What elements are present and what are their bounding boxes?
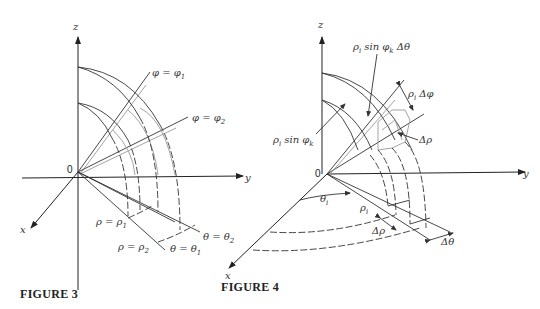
theta2-label: θ = θ2 [203,231,235,245]
dash-arc-2 [392,148,410,224]
z-axis-label: z [317,19,324,30]
arc-rho1-theta2 [78,103,128,140]
dash-arc-1 [405,142,426,228]
arc-outer [322,73,412,150]
arc-length-theta-label: ρi sin φk Δθ [352,41,410,55]
theta-ray-1 [327,174,450,232]
figure-4-caption: FIGURE 4 [221,280,279,294]
origin-label: 0 [315,168,321,179]
radius-sin-label: ρi sin φk [272,134,314,148]
rho-i-label: ρi [359,202,368,216]
delta-rho-bottom-label: Δρ [371,225,385,236]
y-axis [327,172,525,174]
arc-length-phi-label: ρi Δφ [407,88,434,102]
leader-arc-theta [368,54,377,116]
theta1-ray-b [78,172,165,250]
y-axis-label: y [522,168,529,179]
theta1-label: θ = θ1 [170,243,201,257]
y-axis [22,176,243,178]
rho2-arc [158,225,195,242]
delta-rho-top-label: Δρ [418,134,432,145]
rho1-label: ρ = ρ1 [95,216,127,230]
dash-arc-2 [140,118,158,212]
origin-label: 0 [67,164,73,175]
diagram-canvas: z y x 0 φ = φ1 φ = φ2 ρ = ρ1 ρ = ρ2 θ = … [0,0,540,309]
figure-4: z y x 0 ρi sin φk Δθ ρi sin φk ρi Δφ Δρ … [221,19,529,294]
volume-element-inner [382,120,402,140]
arc-gray-outer [140,108,175,175]
arc-gray-mid [128,110,158,175]
phi1-ray-inner [80,85,146,174]
y-axis-label: y [244,172,251,183]
z-axis-label: z [72,21,79,32]
leader-radius-sin [316,104,345,134]
phi1-label: φ = φ1 [152,67,185,81]
rho-arc-2 [253,228,420,251]
x-axis [31,172,78,228]
rho-seg-1 [388,200,410,206]
phi-ray-gray [330,100,395,174]
delta-theta-label: Δθ [440,236,454,247]
x-axis-label: x [20,224,26,235]
phi2-label: φ = φ2 [192,112,226,126]
figure-3-caption: FIGURE 3 [20,287,78,301]
phi-ray-1 [327,80,404,174]
rho2-label: ρ = ρ2 [117,241,150,255]
figure-3: z y x 0 φ = φ1 φ = φ2 ρ = ρ1 ρ = ρ2 θ = … [20,21,251,301]
x-axis [229,174,327,268]
volume-element [378,110,410,150]
